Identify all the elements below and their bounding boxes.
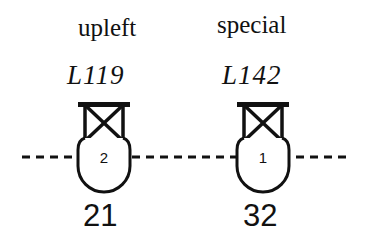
node-2-value: 32	[243, 200, 277, 231]
node-1-value: 21	[83, 200, 117, 231]
hourglass-cap-icon	[237, 104, 289, 140]
node-2-index: 1	[259, 149, 267, 166]
diagram-canvas: 2 1	[0, 0, 365, 242]
node-1-symbol: 2	[78, 104, 130, 192]
node-2-symbol: 1	[237, 104, 289, 192]
node-1-index: 2	[100, 149, 108, 166]
hourglass-cap-icon	[78, 104, 130, 140]
